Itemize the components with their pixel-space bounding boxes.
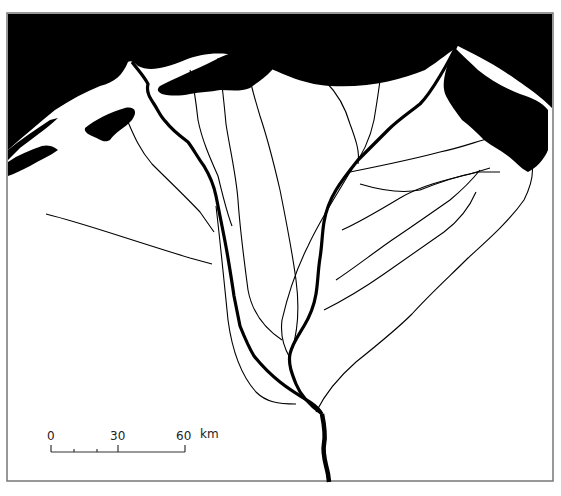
scale-label-30: 30 [110,429,125,443]
scale-label-60: 60 [176,429,191,443]
scale-label-0: 0 [47,429,55,443]
nile-delta-map [0,0,561,496]
scale-unit: km [200,427,219,441]
